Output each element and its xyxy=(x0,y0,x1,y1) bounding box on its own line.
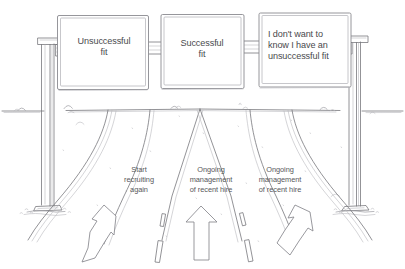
sign-successful-fit xyxy=(161,15,244,90)
diagram-canvas: .ink { fill:none; stroke:#77777c; stroke… xyxy=(0,0,405,269)
arrow-up-left xyxy=(82,205,116,262)
sketch-artwork: .ink { fill:none; stroke:#77777c; stroke… xyxy=(0,0,405,269)
arrow-up-right xyxy=(277,205,313,255)
arrow-up xyxy=(186,206,217,260)
sign-unsuccessful-fit xyxy=(58,16,149,91)
sign-dont-want-to-know xyxy=(259,13,351,88)
